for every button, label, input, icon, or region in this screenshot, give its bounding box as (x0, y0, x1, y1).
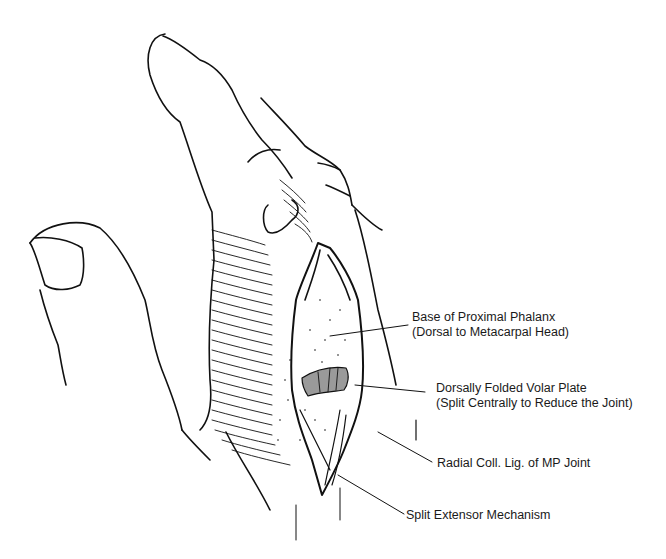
thumbnail (30, 237, 84, 289)
hand-anatomy-illustration (0, 0, 666, 559)
leader-base-proximal-phalanx (330, 325, 408, 336)
label-base-proximal-phalanx: Base of Proximal Phalanx (Dorsal to Meta… (412, 310, 569, 340)
label-radial-coll-lig: Radial Coll. Lig. of MP Joint (437, 456, 590, 471)
label-radial-coll-lig-line1: Radial Coll. Lig. of MP Joint (437, 456, 590, 471)
volar-plate (302, 367, 348, 396)
label-split-extensor-line1: Split Extensor Mechanism (406, 508, 551, 523)
leader-radial-coll-lig (378, 432, 432, 462)
index-fingertip-nail (163, 36, 292, 178)
thumb-outline (30, 223, 182, 430)
leader-split-extensor (338, 475, 404, 514)
label-base-proximal-phalanx-line2: (Dorsal to Metacarpal Head) (412, 325, 569, 340)
label-volar-plate: Dorsally Folded Volar Plate (Split Centr… (436, 381, 633, 411)
leader-volar-plate (355, 385, 425, 392)
label-volar-plate-line1: Dorsally Folded Volar Plate (436, 381, 633, 396)
label-volar-plate-line2: (Split Centrally to Reduce the Joint) (436, 396, 633, 411)
label-base-proximal-phalanx-line1: Base of Proximal Phalanx (412, 310, 569, 325)
middle-finger-outline (352, 205, 382, 230)
index-finger-outline (148, 34, 214, 430)
label-split-extensor: Split Extensor Mechanism (406, 508, 551, 523)
